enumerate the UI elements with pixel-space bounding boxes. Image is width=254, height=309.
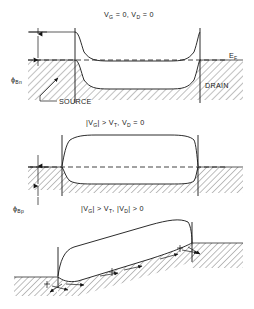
valence-band-edge-top <box>75 60 200 89</box>
source-label: SOURCE <box>59 97 92 106</box>
panel-top: VG = 0, VD = 0 <box>11 10 243 106</box>
substrate-hatch-left-middle <box>28 167 60 190</box>
panel-bottom: |VG| > VT, |VD| > 0 <box>14 204 243 296</box>
valence-band-edge-middle <box>62 167 198 184</box>
conduction-band-edge-middle <box>62 135 198 166</box>
substrate-hatch-left-bottom <box>14 277 57 296</box>
conduction-band-edge-top <box>75 32 200 61</box>
band-diagram-canvas: VG = 0, VD = 0 <box>0 0 254 309</box>
panel-middle-caption: |VG| > VT, VD = 0 <box>86 118 144 128</box>
barrier-height-label-top: ϕBn <box>11 75 22 85</box>
panel-middle: |VG| > VT, VD = 0 <box>13 118 243 214</box>
channel-valence-hatch-top <box>75 60 200 100</box>
substrate-hatch-right-middle <box>198 167 243 193</box>
fermi-level-label: EF <box>229 51 238 61</box>
barrier-height-label-middle: ϕBp <box>13 204 24 214</box>
substrate-hatch-right-top <box>200 60 243 100</box>
channel-valence-hatch-middle <box>60 167 198 193</box>
panel-bottom-caption: |VG| > VT, |VD| > 0 <box>81 204 144 214</box>
drain-label: DRAIN <box>205 81 229 90</box>
panel-top-caption: VG = 0, VD = 0 <box>104 10 154 20</box>
band-diagram-figure: VG = 0, VD = 0 <box>0 0 254 309</box>
substrate-hatch-right-bottom <box>192 243 243 268</box>
substrate-hatch-left-top <box>28 60 75 100</box>
